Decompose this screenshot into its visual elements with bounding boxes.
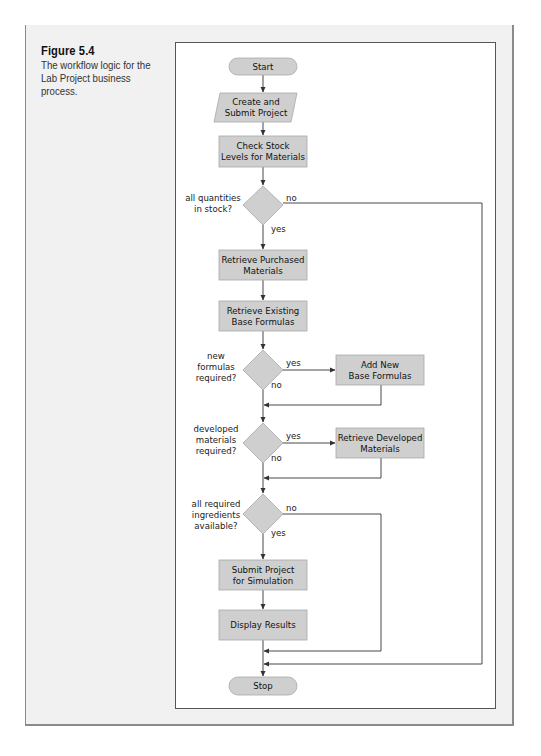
decision-formulas-yes-label: yes <box>286 358 301 368</box>
node-create-submit: Create and Submit Project <box>214 93 297 122</box>
flowchart: Start Create and Submit Project Check St… <box>0 0 541 756</box>
decision-formulas-no-label: no <box>271 380 282 390</box>
node-retrieve-purchased-label-2: Materials <box>243 266 283 276</box>
node-create-submit-label-1: Create and <box>232 97 279 107</box>
node-check-stock: Check Stock Levels for Materials <box>219 136 307 167</box>
node-start: Start <box>229 58 297 75</box>
node-display-results-label: Display Results <box>230 620 296 630</box>
node-submit-simulation-label-2: for Simulation <box>233 576 293 586</box>
decision-ingredients: all required ingredients available? no y… <box>192 494 297 538</box>
decision-stock-yes-label: yes <box>271 224 286 234</box>
node-create-submit-label-2: Submit Project <box>225 108 288 118</box>
node-retrieve-existing: Retrieve Existing Base Formulas <box>219 301 307 331</box>
node-add-new-label-2: Base Formulas <box>349 371 412 381</box>
node-stop: Stop <box>229 677 297 695</box>
node-add-new-label-1: Add New <box>361 360 399 370</box>
decision-ingredients-question-1: all required <box>192 499 241 509</box>
node-display-results: Display Results <box>219 610 307 640</box>
decision-formulas-question-1: new <box>207 351 225 361</box>
node-stop-label: Stop <box>253 681 273 691</box>
decision-developed-no-label: no <box>271 453 282 463</box>
node-start-label: Start <box>253 62 275 72</box>
node-check-stock-label-1: Check Stock <box>237 141 290 151</box>
node-check-stock-label-2: Levels for Materials <box>221 152 305 162</box>
decision-ingredients-no-label: no <box>286 503 297 513</box>
decision-ingredients-question-2: ingredients <box>192 510 241 520</box>
decision-developed-yes-label: yes <box>286 431 301 441</box>
decision-stock-question-2: in stock? <box>194 204 232 214</box>
node-retrieve-existing-label-2: Base Formulas <box>232 317 295 327</box>
decision-stock-no-label: no <box>286 193 297 203</box>
node-retrieve-purchased: Retrieve Purchased Materials <box>219 250 307 280</box>
decision-formulas-question-3: required? <box>196 373 237 383</box>
node-retrieve-developed-label-2: Materials <box>360 444 400 454</box>
node-retrieve-purchased-label-1: Retrieve Purchased <box>221 255 304 265</box>
node-submit-simulation-label-1: Submit Project <box>232 565 295 575</box>
node-retrieve-developed: Retrieve Developed Materials <box>336 428 424 458</box>
node-submit-simulation: Submit Project for Simulation <box>219 560 307 590</box>
decision-stock-question-1: all quantities <box>185 193 241 203</box>
decision-formulas-question-2: formulas <box>197 362 235 372</box>
decision-developed-question-3: required? <box>196 446 237 456</box>
node-retrieve-existing-label-1: Retrieve Existing <box>227 306 300 316</box>
decision-stock: all quantities in stock? no yes <box>185 186 297 234</box>
node-add-new: Add New Base Formulas <box>336 355 424 385</box>
decision-developed-question-1: developed <box>194 424 239 434</box>
decision-ingredients-yes-label: yes <box>271 528 286 538</box>
decision-shape <box>243 186 283 225</box>
decision-developed-question-2: materials <box>196 435 237 445</box>
decision-ingredients-question-3: available? <box>194 521 237 531</box>
node-retrieve-developed-label-1: Retrieve Developed <box>338 433 423 443</box>
